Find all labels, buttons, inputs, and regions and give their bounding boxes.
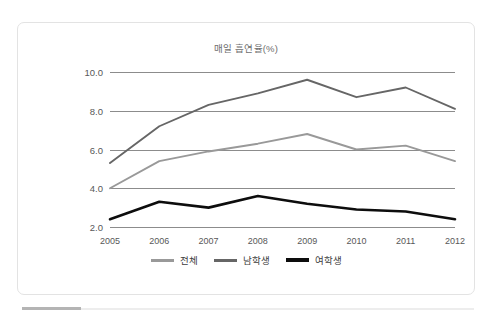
legend-item[interactable]: 전체	[151, 253, 198, 267]
legend-label: 전체	[180, 253, 198, 267]
y-axis-tick-label: 6.0	[90, 144, 103, 155]
x-axis-tick-label: 2010	[346, 236, 366, 246]
chart-plot-area: 2.04.06.08.010.0 20052006200720082009201…	[110, 72, 455, 227]
gridline	[110, 227, 455, 228]
y-axis-tick-label: 10.0	[85, 67, 104, 78]
page-root: 매일 흡연율(%) 2.04.06.08.010.0 2005200620072…	[0, 0, 493, 318]
legend-swatch-icon	[151, 259, 174, 262]
bottom-divider-accent	[22, 307, 81, 310]
x-axis-tick-label: 2006	[149, 236, 169, 246]
y-axis-tick-label: 4.0	[90, 183, 103, 194]
legend-item[interactable]: 남학생	[214, 253, 270, 267]
chart-title: 매일 흡연율(%)	[18, 41, 474, 55]
series-line	[110, 134, 455, 188]
x-axis-tick-label: 2007	[199, 236, 219, 246]
x-axis-tick-label: 2009	[297, 236, 317, 246]
legend-swatch-icon	[286, 258, 309, 261]
legend-label: 남학생	[243, 253, 270, 267]
chart-legend: 전체남학생여학생	[18, 253, 474, 267]
x-axis-tick-label: 2011	[396, 236, 415, 246]
chart-card: 매일 흡연율(%) 2.04.06.08.010.0 2005200620072…	[17, 22, 475, 295]
series-lines	[110, 72, 455, 227]
x-axis-tick-label: 2005	[100, 236, 120, 246]
series-line	[110, 196, 455, 219]
legend-label: 여학생	[315, 253, 342, 267]
bottom-divider	[22, 308, 474, 310]
x-axis-tick-label: 2012	[445, 236, 465, 246]
legend-swatch-icon	[214, 259, 237, 262]
y-axis-tick-label: 8.0	[90, 105, 103, 116]
y-axis-tick-label: 2.0	[90, 222, 103, 233]
legend-item[interactable]: 여학생	[286, 253, 342, 267]
series-line	[110, 80, 455, 163]
x-axis-tick-label: 2008	[248, 236, 268, 246]
